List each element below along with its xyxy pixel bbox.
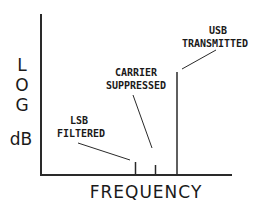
carrier-label-line2: SUPPRESSED: [106, 80, 166, 91]
ssb-spectrum-diagram: L O G dB FREQUENCY LSB FILTERED CARRIER …: [0, 0, 266, 211]
lsb-leader-line: [78, 143, 130, 160]
usb-leader-line: [182, 50, 216, 69]
y-axis-label-o: O: [15, 75, 28, 95]
y-axis-label-g: G: [15, 95, 28, 115]
lsb-label-line2: FILTERED: [57, 128, 105, 139]
usb-label-line2: TRANSMITTED: [182, 38, 248, 49]
carrier-leader-line: [133, 95, 152, 148]
x-axis-label: FREQUENCY: [90, 182, 203, 202]
y-axis-label-db: dB: [10, 129, 32, 149]
y-axis-label-l: L: [17, 55, 27, 75]
usb-label-line1: USB: [209, 25, 227, 36]
lsb-label-line1: LSB: [70, 115, 88, 126]
carrier-label-line1: CARRIER: [115, 67, 158, 78]
